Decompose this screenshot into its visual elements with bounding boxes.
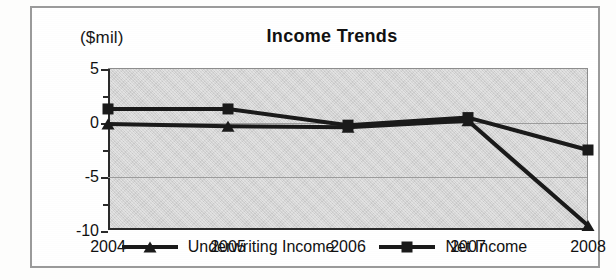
- plot-area: 50-5-10 20042005200620072008: [108, 68, 588, 230]
- legend-marker-square-icon: [378, 240, 436, 254]
- series-net-income: [103, 103, 594, 155]
- chart-legend: Underwriting IncomeNet Income: [32, 238, 598, 256]
- y-axis-tick-label: -5: [85, 168, 99, 186]
- data-point-marker-square: [583, 145, 594, 156]
- data-point-marker-square: [223, 103, 234, 114]
- series-layer: [108, 69, 588, 231]
- data-point-marker-square: [463, 112, 474, 123]
- legend-label: Net Income: [445, 238, 527, 256]
- legend-marker-triangle-icon: [121, 240, 179, 254]
- legend-item[interactable]: Underwriting Income: [121, 238, 335, 256]
- chart-page: ($mil) Income Trends 50-5-10 20042005200…: [0, 0, 616, 280]
- legend-label: Underwriting Income: [188, 238, 335, 256]
- legend-item[interactable]: Net Income: [378, 238, 527, 256]
- chart-frame: ($mil) Income Trends 50-5-10 20042005200…: [30, 6, 600, 268]
- y-axis-tick-label: 5: [90, 60, 99, 78]
- y-axis-tick-label: 0: [90, 114, 99, 132]
- data-point-marker-square: [103, 103, 114, 114]
- y-tick-major: [101, 177, 108, 179]
- chart-title: Income Trends: [32, 26, 598, 47]
- y-tick-major: [101, 231, 108, 233]
- data-point-marker-square: [402, 242, 413, 253]
- y-tick-major: [101, 69, 108, 71]
- series-line: [108, 121, 588, 226]
- data-point-marker-square: [343, 120, 354, 131]
